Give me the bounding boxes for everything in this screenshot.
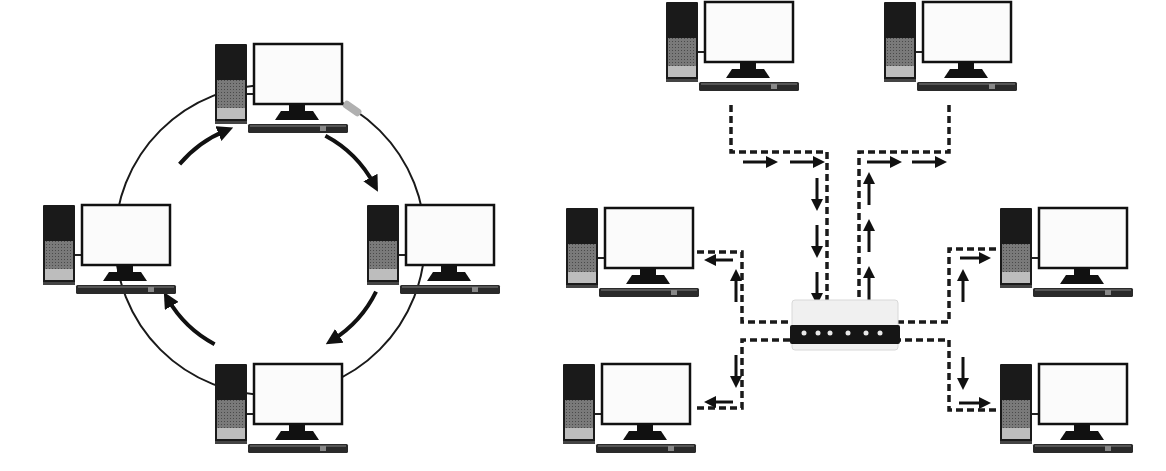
- network-topology-diagram: Ring topology vs Star topology Computer …: [0, 0, 1166, 471]
- monitor-icon: [1039, 364, 1127, 440]
- status-led-icon: [816, 331, 821, 336]
- monitor-icon: [254, 44, 342, 120]
- monitor-icon: [923, 2, 1011, 78]
- monitor-icon: [406, 205, 494, 281]
- tower-icon: [215, 364, 247, 444]
- monitor-icon: [605, 208, 693, 284]
- computer: Computer (top-right): [884, 2, 1017, 91]
- computer: Computer (bottom-left): [563, 364, 696, 453]
- network-cable: [897, 340, 996, 410]
- tower-icon: [884, 2, 916, 82]
- keyboard-icon: [248, 124, 348, 133]
- status-led-icon: [878, 331, 883, 336]
- flow-arrow-icon: [333, 292, 377, 340]
- computer: Computer (middle-left): [566, 208, 699, 297]
- computer: Computer (top-left): [666, 2, 799, 91]
- monitor-icon: [705, 2, 793, 78]
- status-led-icon: [802, 331, 807, 336]
- flow-arrow-icon: [168, 299, 215, 344]
- computer: Computer (middle-right): [1000, 208, 1133, 297]
- flow-arrow-icon: [325, 136, 374, 185]
- tower-icon: [367, 205, 399, 285]
- network-switch-icon: Switch / hub: [790, 300, 900, 350]
- tower-icon: [1000, 208, 1032, 288]
- keyboard-icon: [1033, 288, 1133, 297]
- network-cable: [897, 249, 996, 322]
- cable-connector-icon: [342, 100, 363, 118]
- status-led-icon: [846, 331, 851, 336]
- status-led-icon: [828, 331, 833, 336]
- network-cable: [697, 340, 800, 408]
- tower-icon: [563, 364, 595, 444]
- network-cable: [697, 252, 800, 322]
- keyboard-icon: [400, 285, 500, 294]
- tower-icon: [566, 208, 598, 288]
- computer: Computer (top): [215, 44, 348, 133]
- keyboard-icon: [917, 82, 1017, 91]
- tower-icon: [666, 2, 698, 82]
- keyboard-icon: [248, 444, 348, 453]
- network-cable: [731, 105, 827, 307]
- ring-network: Computer (top)Computer (right)Computer (…: [43, 44, 500, 453]
- keyboard-icon: [76, 285, 176, 294]
- keyboard-icon: [596, 444, 696, 453]
- diagram-canvas: Computer (top)Computer (right)Computer (…: [0, 0, 1166, 471]
- keyboard-icon: [599, 288, 699, 297]
- monitor-icon: [82, 205, 170, 281]
- star-network: Switch / hubComputer (top-left)Computer …: [563, 2, 1133, 453]
- tower-icon: [1000, 364, 1032, 444]
- monitor-icon: [254, 364, 342, 440]
- keyboard-icon: [699, 82, 799, 91]
- flow-arrow-icon: [180, 131, 226, 165]
- computer: Computer (bottom): [215, 364, 348, 453]
- tower-icon: [215, 44, 247, 124]
- status-led-icon: [864, 331, 869, 336]
- keyboard-icon: [1033, 444, 1133, 453]
- monitor-icon: [602, 364, 690, 440]
- computer: Computer (bottom-right): [1000, 364, 1133, 453]
- tower-icon: [43, 205, 75, 285]
- monitor-icon: [1039, 208, 1127, 284]
- network-cable: [859, 105, 949, 307]
- computer: Computer (right): [367, 205, 500, 294]
- computer: Computer (left): [43, 205, 176, 294]
